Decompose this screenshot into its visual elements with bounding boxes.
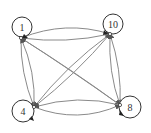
node-label: 10 (108, 19, 118, 30)
node-label: 4 (21, 106, 26, 117)
node-8: 8 (118, 96, 141, 118)
node-label: 8 (128, 102, 133, 113)
edge-1-8 (21, 38, 120, 105)
edge-10-1 (21, 34, 110, 40)
node-1: 1 (12, 17, 32, 40)
node-10: 10 (103, 14, 123, 36)
graph-canvas: 1 10 4 8 (0, 0, 151, 133)
edge-4-8 (34, 105, 120, 115)
edge-4-1 (21, 38, 34, 107)
node-label: 1 (20, 22, 25, 33)
edge-8-4 (34, 100, 120, 107)
edge-4-10 (34, 34, 110, 107)
edge-10-4 (34, 34, 110, 107)
edges (21, 28, 120, 115)
